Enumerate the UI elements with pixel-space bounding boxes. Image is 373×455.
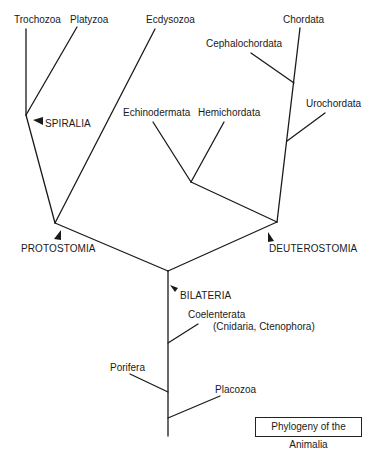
label-protostomia: PROTOSTOMIA	[21, 243, 96, 255]
branch-chordata	[277, 28, 300, 222]
label-trochozoa: Trochozoa	[14, 14, 61, 26]
label-porifera: Porifera	[110, 362, 145, 374]
branch-placozoa	[168, 396, 220, 418]
branch-deuterostomia	[168, 222, 277, 271]
branch-ambulacraria	[191, 182, 277, 222]
label-hemichordata: Hemichordata	[198, 107, 260, 119]
branch-urochordata	[287, 113, 325, 141]
protostomia-arrow-icon	[54, 230, 61, 240]
branch-cephalochordata	[251, 53, 294, 83]
bilateria-arrow-icon	[170, 285, 178, 292]
phylogeny-tree	[0, 0, 373, 455]
branch-echinodermata	[153, 122, 191, 182]
label-coelenterata-sub: (Cnidaria, Ctenophora)	[213, 321, 315, 333]
label-bilateria: BILATERIA	[180, 290, 231, 302]
label-ecdysozoa: Ecdysozoa	[146, 14, 195, 26]
label-deuterostomia: DEUTEROSTOMIA	[269, 243, 357, 255]
label-spiralia: SPIRALIA	[45, 118, 91, 130]
label-echinodermata: Echinodermata	[123, 107, 190, 119]
branch-platyzoa	[26, 27, 77, 115]
branch-coelenterata	[168, 324, 198, 343]
label-coelenterata: Coelenterata	[188, 309, 245, 321]
deuterostomia-arrow-icon	[268, 232, 274, 242]
label-chordata: Chordata	[283, 14, 324, 26]
label-urochordata: Urochordata	[306, 98, 361, 110]
spiralia-arrow-icon	[33, 117, 43, 125]
label-cephalochordata: Cephalochordata	[206, 38, 282, 50]
branch-spiralia	[26, 115, 55, 223]
branch-hemichordata	[191, 122, 224, 182]
label-placozoa: Placozoa	[215, 384, 256, 396]
label-platyzoa: Platyzoa	[70, 14, 108, 26]
diagram-title: Phylogeny of the Animalia	[255, 417, 362, 437]
branch-porifera	[130, 374, 168, 392]
